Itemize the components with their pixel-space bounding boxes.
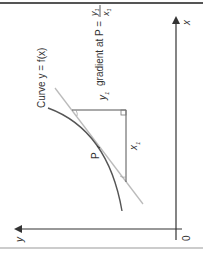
- x-axis-label: x: [181, 19, 192, 26]
- rise-label: y1: [97, 92, 110, 101]
- origin-label: 0: [181, 235, 192, 241]
- gradient-diagram: Curve y = f(x) P y1 x1 gradient at P = y…: [0, 0, 203, 269]
- gradient-denominator: x1: [101, 8, 112, 17]
- right-angle-marker: [121, 110, 126, 115]
- y-axis-label: y: [14, 236, 25, 243]
- run-label: x1: [128, 142, 141, 151]
- gradient-numerator: y1: [89, 8, 100, 17]
- curve-y-f-x: [48, 108, 122, 211]
- curve-label: Curve y = f(x): [36, 48, 47, 108]
- gradient-fraction: y1 x1: [89, 5, 112, 17]
- point-p-label: P: [90, 152, 101, 159]
- gradient-text: gradient at P =: [94, 21, 105, 86]
